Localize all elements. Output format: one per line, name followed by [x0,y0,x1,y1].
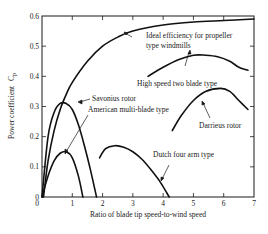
x-tick-label: 1 [70,199,74,208]
y-tick-label: 0.4 [30,72,40,81]
y-tick-label: 0.1 [30,162,40,171]
x-tick-label: 6 [222,199,226,208]
annotation-ideal-line1: Ideal efficiency for propeller [146,31,233,40]
annotation-ideal-line2: type windmills [146,41,191,50]
y-tick-label: 0.6 [30,12,40,21]
chart: 01234567 00.10.20.30.40.50.6 Ideal effic… [0,0,268,234]
x-tick-label: 3 [131,199,135,208]
x-axis-label: Ratio of blade tip speed-to-wind speed [90,210,206,219]
x-tick-label: 5 [192,199,196,208]
annotation-american: American multi-blade type [88,105,169,114]
y-tick-label: 0 [35,193,39,202]
x-tick-label: 7 [252,199,256,208]
annotation-dutch: Dutch four arm type [153,150,215,159]
annotation-savonius: Savonius rotor [92,94,136,103]
y-axis-label-main: Power coefficient [7,85,16,139]
annotation-high-speed: High speed two blade type [137,79,218,88]
annotation-darrieus: Darrieus rotor [199,121,242,130]
y-axis-label: Power coefficient Cp [7,73,17,139]
y-tick-label: 0.3 [30,102,40,111]
x-tick-label: 4 [161,199,165,208]
curve-high-speed-two-blade-type [148,55,248,77]
y-axis-label-subscript: p [11,73,17,76]
svg-text:Power coefficient Cp: Power coefficient Cp [7,73,17,139]
x-tick-label: 2 [101,199,105,208]
y-tick-label: 0.5 [30,42,40,51]
y-tick-label: 0.2 [30,132,40,141]
